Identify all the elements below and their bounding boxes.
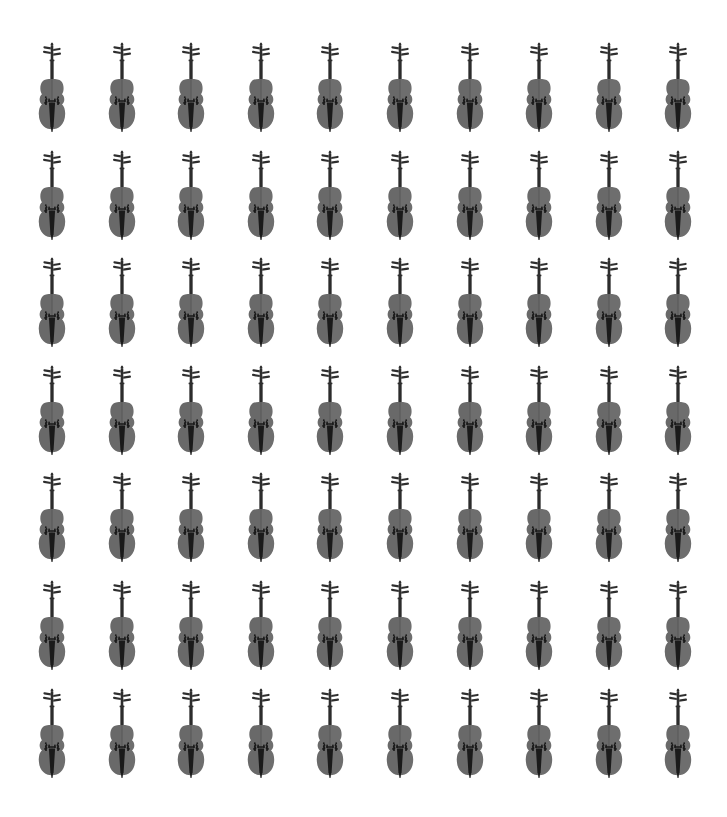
violin-icon bbox=[518, 472, 560, 574]
violin-icon bbox=[240, 472, 282, 574]
violin-icon bbox=[657, 688, 699, 790]
violin-icon bbox=[449, 472, 491, 574]
violin-icon bbox=[170, 42, 212, 144]
violin-icon bbox=[170, 150, 212, 252]
violin-icon bbox=[588, 580, 630, 682]
violin-icon bbox=[657, 580, 699, 682]
violin-icon bbox=[518, 580, 560, 682]
violin-icon bbox=[31, 257, 73, 359]
violin-icon bbox=[449, 688, 491, 790]
violin-icon bbox=[101, 42, 143, 144]
violin-icon bbox=[309, 257, 351, 359]
violin-icon bbox=[31, 42, 73, 144]
violin-icon bbox=[170, 365, 212, 467]
violin-icon bbox=[588, 365, 630, 467]
violin-icon bbox=[449, 365, 491, 467]
violin-icon bbox=[657, 42, 699, 144]
violin-icon bbox=[379, 688, 421, 790]
violin-icon bbox=[588, 472, 630, 574]
violin-icon bbox=[31, 472, 73, 574]
violin-icon bbox=[379, 150, 421, 252]
violin-icon bbox=[240, 688, 282, 790]
violin-icon bbox=[101, 580, 143, 682]
violin-icon bbox=[588, 257, 630, 359]
violin-icon bbox=[101, 472, 143, 574]
violin-icon bbox=[518, 365, 560, 467]
violin-icon bbox=[657, 365, 699, 467]
violin-icon bbox=[101, 150, 143, 252]
violin-icon bbox=[588, 150, 630, 252]
violin-icon bbox=[101, 365, 143, 467]
violin-icon bbox=[240, 42, 282, 144]
violin-icon bbox=[240, 580, 282, 682]
violin-icon bbox=[31, 580, 73, 682]
violin-icon bbox=[518, 688, 560, 790]
violin-icon bbox=[31, 150, 73, 252]
violin-icon bbox=[588, 688, 630, 790]
violin-icon bbox=[240, 150, 282, 252]
violin-icon bbox=[657, 150, 699, 252]
violin-icon bbox=[309, 688, 351, 790]
violin-icon bbox=[309, 580, 351, 682]
violin-icon bbox=[240, 257, 282, 359]
violin-icon bbox=[309, 472, 351, 574]
violin-icon bbox=[449, 150, 491, 252]
violin-icon bbox=[379, 257, 421, 359]
violin-icon bbox=[379, 42, 421, 144]
violin-icon bbox=[170, 688, 212, 790]
violin-icon bbox=[379, 365, 421, 467]
violin-icon bbox=[518, 257, 560, 359]
violin-icon bbox=[379, 472, 421, 574]
violin-icon bbox=[657, 472, 699, 574]
violin-icon bbox=[309, 365, 351, 467]
violin-icon bbox=[240, 365, 282, 467]
violin-icon bbox=[379, 580, 421, 682]
violin-icon bbox=[518, 150, 560, 252]
violin-icon bbox=[170, 472, 212, 574]
violin-icon bbox=[101, 688, 143, 790]
violin-icon bbox=[588, 42, 630, 144]
violin-icon bbox=[101, 257, 143, 359]
violin-icon bbox=[31, 688, 73, 790]
violin-icon bbox=[170, 257, 212, 359]
violin-icon bbox=[657, 257, 699, 359]
violin-icon-grid bbox=[0, 0, 727, 817]
violin-icon bbox=[309, 150, 351, 252]
violin-icon bbox=[31, 365, 73, 467]
violin-icon bbox=[449, 42, 491, 144]
violin-icon bbox=[309, 42, 351, 144]
violin-icon bbox=[518, 42, 560, 144]
violin-icon bbox=[449, 580, 491, 682]
violin-icon bbox=[449, 257, 491, 359]
violin-icon bbox=[170, 580, 212, 682]
